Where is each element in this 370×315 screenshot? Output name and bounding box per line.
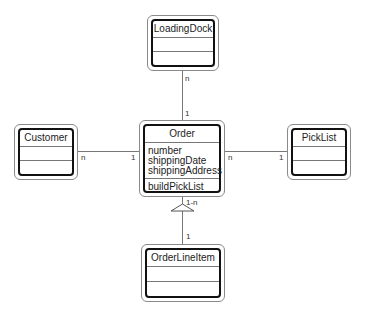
- attributes-section: [20, 147, 72, 161]
- class-name: PickList: [293, 130, 345, 147]
- operations-section: [153, 52, 213, 65]
- multiplicity-order-right-end: n: [228, 154, 232, 162]
- class-order[interactable]: Order number shippingDate shippingAddres…: [139, 120, 225, 197]
- attributes-section: number shippingDate shippingAddress: [145, 143, 219, 179]
- multiplicity-picklist-end: 1: [279, 154, 283, 162]
- class-name: Order: [145, 126, 219, 143]
- operations-section: buildPickList: [145, 179, 219, 194]
- class-customer[interactable]: Customer: [14, 124, 78, 180]
- operations-section: [293, 161, 345, 174]
- class-name: OrderLineItem: [147, 250, 219, 267]
- multiplicity-orderlineitem-end: 1: [186, 233, 190, 241]
- operation: buildPickList: [148, 182, 216, 192]
- multiplicity-customer-end: n: [81, 154, 85, 162]
- operations-section: [147, 282, 219, 296]
- multiplicity-order-top-end: 1: [185, 110, 189, 118]
- attribute: shippingAddress: [148, 166, 216, 176]
- operations-section: [20, 161, 72, 174]
- attributes-section: [153, 38, 213, 52]
- multiplicity-order-bottom-end: 1-n: [186, 199, 198, 207]
- class-name: Customer: [20, 130, 72, 147]
- class-orderlineitem[interactable]: OrderLineItem: [141, 244, 225, 302]
- attributes-section: [293, 147, 345, 161]
- attributes-section: [147, 267, 219, 282]
- multiplicity-order-left-end: 1: [131, 154, 135, 162]
- class-picklist[interactable]: PickList: [287, 124, 351, 180]
- multiplicity-loadingdock-end: n: [185, 75, 189, 83]
- class-name: LoadingDock: [153, 21, 213, 38]
- class-loadingdock[interactable]: LoadingDock: [147, 15, 219, 71]
